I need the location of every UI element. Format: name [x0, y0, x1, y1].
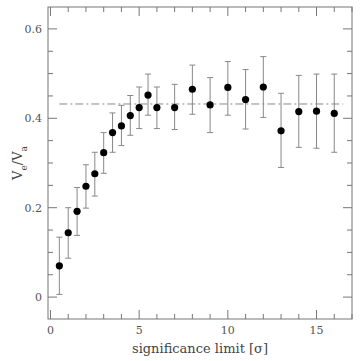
- x-tick-label: 5: [136, 324, 143, 337]
- y-tick-label: 0.4: [25, 112, 43, 125]
- error-bars: [56, 57, 337, 295]
- data-point: [118, 122, 125, 129]
- data-point: [295, 108, 302, 115]
- data-point: [224, 84, 231, 91]
- data-point: [100, 149, 107, 156]
- data-point: [127, 112, 134, 119]
- plot-frame: [48, 7, 352, 319]
- chart: 05101500.20.40.6 significance limit [σ] …: [0, 0, 363, 361]
- x-tick-label: 10: [221, 324, 235, 337]
- data-point: [313, 108, 320, 115]
- axis-tick-labels: 05101500.20.40.6: [25, 23, 324, 337]
- data-point: [136, 104, 143, 111]
- data-point: [331, 110, 338, 117]
- data-point: [56, 262, 63, 269]
- data-point: [82, 183, 89, 190]
- data-point: [109, 129, 116, 136]
- y-axis-title-main: V: [10, 170, 25, 181]
- y-axis-title: Ve/Va: [10, 145, 29, 181]
- x-tick-label: 0: [47, 324, 54, 337]
- x-tick-label: 15: [310, 324, 324, 337]
- y-tick-label: 0: [35, 291, 42, 304]
- plot-border: [48, 7, 352, 319]
- y-tick-label: 0.2: [25, 202, 43, 215]
- y-axis-title-slash: /V: [10, 151, 25, 165]
- x-axis-title: significance limit [σ]: [132, 341, 268, 356]
- data-point: [73, 208, 80, 215]
- axis-ticks: [48, 7, 352, 319]
- data-point: [65, 229, 72, 236]
- y-axis-title-sub2: a: [19, 145, 29, 151]
- data-point: [91, 170, 98, 177]
- data-points: [56, 83, 338, 269]
- data-point: [153, 104, 160, 111]
- data-point: [242, 96, 249, 103]
- data-point: [189, 86, 196, 93]
- data-point: [260, 83, 267, 90]
- data-point: [207, 101, 214, 108]
- data-point: [171, 104, 178, 111]
- data-point: [144, 91, 151, 98]
- data-point: [277, 127, 284, 134]
- y-tick-label: 0.6: [25, 23, 43, 36]
